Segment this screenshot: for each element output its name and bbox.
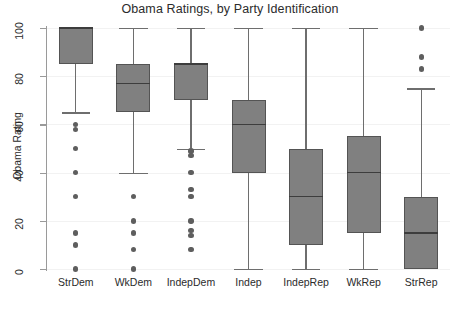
y-tick-label-text: 20 bbox=[12, 218, 26, 230]
y-tick-label-text: 60 bbox=[12, 122, 26, 134]
y-tick-label: 100 bbox=[0, 21, 38, 35]
x-tick-label-indep: Indep bbox=[220, 276, 278, 288]
y-tick-label-text: 80 bbox=[12, 73, 26, 85]
chart-title: Obama Ratings, by Party Identification bbox=[0, 2, 460, 16]
x-tick-label-indepdem: IndepDem bbox=[162, 276, 220, 288]
x-tick-label-wkdem: WkDem bbox=[105, 276, 163, 288]
y-tick-label-text: 100 bbox=[12, 22, 26, 40]
x-tick-label-strdem: StrDem bbox=[47, 276, 105, 288]
y-tick-label: 80 bbox=[0, 69, 38, 83]
whisker-upper bbox=[421, 88, 422, 196]
median-line bbox=[404, 232, 438, 234]
y-tick-label: 20 bbox=[0, 214, 38, 228]
whisker-cap-upper bbox=[407, 88, 436, 89]
plot-area bbox=[47, 28, 450, 269]
y-axis-label: Obama Rating bbox=[11, 86, 23, 206]
whisker-cap-lower bbox=[349, 269, 378, 270]
x-tick-label-strrep: StrRep bbox=[392, 276, 450, 288]
outlier-point bbox=[419, 54, 424, 59]
y-tick-label: 0 bbox=[0, 262, 38, 276]
y-tick-label-text: 0 bbox=[12, 269, 26, 275]
outlier-point bbox=[419, 66, 424, 71]
x-tick-label-indeprep: IndepRep bbox=[277, 276, 335, 288]
boxplot-strrep bbox=[47, 28, 450, 269]
whisker-cap-lower bbox=[292, 269, 321, 270]
whisker-cap-lower bbox=[234, 269, 263, 270]
y-tick-label-text: 40 bbox=[12, 170, 26, 182]
y-tick-label: 40 bbox=[0, 166, 38, 180]
y-tick-label: 60 bbox=[0, 117, 38, 131]
x-tick-label-wkrep: WkRep bbox=[335, 276, 393, 288]
outlier-point bbox=[419, 25, 424, 30]
boxplot-chart: Obama Ratings, by Party Identification O… bbox=[0, 0, 460, 311]
